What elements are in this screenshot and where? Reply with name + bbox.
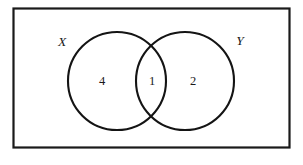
venn-diagram-figure: X Y 4 1 2 — [0, 0, 303, 165]
set-label-y: Y — [236, 33, 245, 48]
venn-diagram-canvas: X Y 4 1 2 — [0, 0, 303, 165]
set-label-x: X — [57, 34, 67, 49]
region-count-intersection: 1 — [149, 74, 155, 88]
region-count-y-only: 2 — [190, 74, 196, 88]
region-count-x-only: 4 — [99, 74, 106, 88]
